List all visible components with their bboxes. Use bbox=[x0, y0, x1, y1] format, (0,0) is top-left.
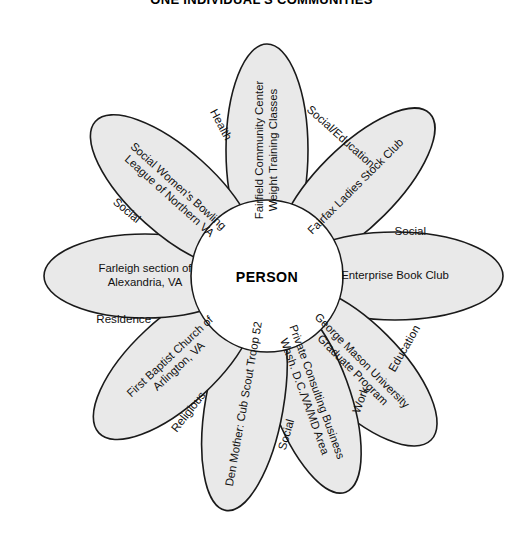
petal-category-label-7: Residence bbox=[96, 312, 151, 325]
page-title: ONE INDIVIDUAL'S COMMUNITIES bbox=[0, 0, 523, 7]
center-person-label: PERSON bbox=[236, 269, 298, 285]
petal-text-0: Fairfield Community CenterWeight Trainin… bbox=[253, 80, 278, 219]
petal-category-label-2: Social bbox=[395, 224, 427, 237]
community-diagram: ONE INDIVIDUAL'S COMMUNITIES PERSON Fair… bbox=[0, 0, 523, 533]
flower-diagram-svg: PERSON Fairfield Community CenterWeight … bbox=[0, 0, 523, 533]
petal-text-7: Farleigh section ofAlexandria, VA bbox=[98, 262, 192, 287]
petal-text-2: Enterprise Book Club bbox=[341, 269, 449, 281]
